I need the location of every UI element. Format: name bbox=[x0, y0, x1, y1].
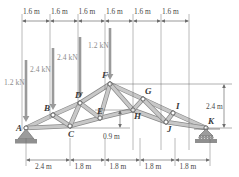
bottom-dim-5-head-right bbox=[206, 158, 210, 162]
joint-label-e: E bbox=[97, 107, 103, 116]
top-dim-2-head-left bbox=[50, 19, 54, 23]
top-dim-3-head-right bbox=[101, 19, 105, 23]
bottom-dim-2-head-left bbox=[70, 158, 74, 162]
top-dim-1-head-left bbox=[22, 19, 26, 23]
load-label-2: 2.4 kN bbox=[30, 66, 51, 74]
bottom-dim-4-head-left bbox=[140, 158, 144, 162]
roller-support-wheel bbox=[202, 136, 205, 139]
joint-label-h: H bbox=[134, 112, 141, 121]
bottom-dim-label-5: 1.8 m bbox=[180, 163, 197, 170]
top-dim-4-head-left bbox=[105, 19, 109, 23]
right-dim-head-top bbox=[222, 84, 226, 88]
truss-member-ac bbox=[26, 126, 70, 128]
bottom-dim-5-head-left bbox=[175, 158, 179, 162]
right-dim-head-bottom bbox=[222, 124, 226, 128]
top-dim-label-5: 1.6 m bbox=[134, 8, 151, 15]
truss-joint-c bbox=[68, 124, 72, 128]
bottom-dim-label-3: 1.8 m bbox=[110, 163, 127, 170]
top-dim-4-head-right bbox=[129, 19, 133, 23]
bottom-dim-label-2: 1.8 m bbox=[75, 163, 92, 170]
joint-label-f: F bbox=[102, 71, 108, 80]
joint-label-a: A bbox=[16, 124, 22, 133]
bottom-dim-3-head-left bbox=[105, 158, 109, 162]
load-label-4: 1.2 kN bbox=[88, 42, 109, 50]
top-dim-5-head-right bbox=[157, 19, 161, 23]
top-dim-label-4: 1.6 m bbox=[106, 8, 123, 15]
bottom-dim-1-head-right bbox=[66, 158, 70, 162]
top-dim-5-head-left bbox=[133, 19, 137, 23]
top-dim-label-3: 1.6 m bbox=[79, 8, 96, 15]
load-arrow-head-1 bbox=[23, 116, 30, 122]
bottom-dim-3-head-right bbox=[136, 158, 140, 162]
joint-label-i: I bbox=[176, 102, 180, 111]
bottom-dim-4-head-right bbox=[171, 158, 175, 162]
top-dim-1-head-right bbox=[46, 19, 50, 23]
bottom-dim-label-1: 2.4 m bbox=[35, 163, 52, 170]
roller-support-triangle bbox=[199, 129, 213, 136]
joint-label-j: J bbox=[167, 125, 172, 134]
truss-diagram-figure: 1.2 kN2.4 kN2.4 kN1.2 kN1.6 m1.6 m1.6 m1… bbox=[0, 0, 239, 177]
top-dim-3-head-left bbox=[78, 19, 82, 23]
top-dim-label-2: 1.6 m bbox=[51, 8, 68, 15]
truss-joint-b bbox=[51, 113, 55, 117]
roller-support-wheel bbox=[211, 136, 214, 139]
load-label-3: 2.4 kN bbox=[57, 54, 78, 62]
truss-diagram-canvas bbox=[0, 0, 239, 177]
inner-dim-label: 0.9 m bbox=[103, 133, 120, 140]
top-dim-6-head-right bbox=[185, 19, 189, 23]
joint-label-c: C bbox=[68, 130, 74, 139]
bottom-dim-label-4: 1.8 m bbox=[145, 163, 162, 170]
top-dim-2-head-right bbox=[74, 19, 78, 23]
load-arrow-head-2 bbox=[50, 104, 57, 110]
bottom-dim-1-head-left bbox=[26, 158, 30, 162]
joint-label-g: G bbox=[145, 87, 152, 96]
truss-joint-d bbox=[78, 101, 82, 105]
bottom-dim-2-head-right bbox=[101, 158, 105, 162]
roller-support-base bbox=[195, 139, 217, 143]
top-dim-6-head-left bbox=[161, 19, 165, 23]
joint-label-d: D bbox=[75, 91, 82, 100]
joint-label-k: K bbox=[208, 117, 214, 126]
roller-support-wheel bbox=[199, 136, 202, 139]
top-dim-label-6: 1.6 m bbox=[162, 8, 179, 15]
load-label-1: 1.2 kN bbox=[4, 79, 25, 87]
truss-joint-e bbox=[98, 116, 102, 120]
truss-joint-g bbox=[141, 97, 145, 101]
joint-label-b: B bbox=[44, 104, 50, 113]
top-dim-label-1: 1.6 m bbox=[23, 8, 40, 15]
inner-dim-head-bottom bbox=[118, 124, 122, 128]
truss-member-eh bbox=[100, 110, 133, 118]
right-dim-label: 2.4 m bbox=[206, 103, 223, 110]
truss-joint-i bbox=[171, 111, 175, 115]
roller-support-wheel bbox=[205, 136, 208, 139]
